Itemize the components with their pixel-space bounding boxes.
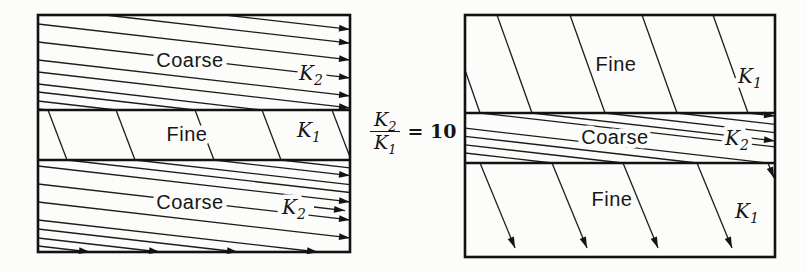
fine-bottom-label: Fine <box>592 188 633 210</box>
k2-mid-label: K2 <box>724 126 749 153</box>
flow-arrowhead-icon <box>334 206 345 213</box>
fraction-numerator: K2 <box>370 109 400 132</box>
k2-bottom-label: K2 <box>281 195 306 222</box>
flow-line <box>38 84 262 110</box>
equation-rhs: = 10 <box>407 120 456 142</box>
flow-line <box>465 153 552 163</box>
flow-line <box>262 110 281 160</box>
flow-arrowhead-icon <box>339 171 350 178</box>
coarse-mid-label: Coarse <box>581 126 648 148</box>
flow-line <box>38 220 318 252</box>
flow-line <box>480 163 515 248</box>
flow-arrowhead-icon <box>651 237 658 248</box>
coarse-bottom-label: Coarse <box>156 191 223 213</box>
k1-mid-label: K1 <box>296 118 321 145</box>
left-stratified-section: CoarseK2FineK1CoarseK2 <box>38 15 350 254</box>
flow-arrowhead-icon <box>339 55 350 62</box>
right-stratified-section: FineK1CoarseK2FineK1 <box>465 15 775 257</box>
flow-line <box>116 110 135 160</box>
flow-line <box>497 15 532 113</box>
coarse-top-label: Coarse <box>156 49 223 71</box>
conductivity-ratio-equation: K2 K1 = 10 <box>370 109 456 153</box>
flow-line <box>38 101 116 110</box>
flow-arrowhead-icon <box>339 215 350 222</box>
flow-arrowhead-icon <box>339 39 350 46</box>
flow-arrowhead-icon <box>764 136 775 143</box>
flow-line <box>552 163 587 248</box>
flow-line <box>105 15 350 43</box>
k2-top-label: K2 <box>298 61 323 88</box>
flow-line <box>38 238 160 252</box>
flow-line <box>214 160 350 176</box>
flow-line <box>697 163 732 248</box>
flow-arrowhead-icon <box>339 73 350 80</box>
k-ratio-fraction: K2 K1 <box>370 109 400 153</box>
fine-mid-label: Fine <box>167 123 208 145</box>
flow-arrowhead-icon <box>508 237 515 248</box>
flow-line <box>332 110 350 157</box>
fraction-denominator: K1 <box>370 132 400 153</box>
flow-line <box>465 70 480 113</box>
flow-line <box>48 110 67 160</box>
fine-top-label: Fine <box>596 53 637 75</box>
flow-line <box>38 92 195 110</box>
figure-stage: CoarseK2FineK1CoarseK2FineK1CoarseK2Fine… <box>0 0 807 273</box>
k1-bottom-label: K1 <box>734 199 759 226</box>
k1-top-label: K1 <box>737 64 762 91</box>
flow-arrowhead-icon <box>339 91 350 98</box>
flow-line <box>38 229 238 252</box>
flow-line <box>642 15 677 113</box>
flow-arrowhead-icon <box>339 233 350 240</box>
flow-arrowhead-icon <box>580 237 587 248</box>
flow-arrowhead-icon <box>339 197 350 204</box>
flow-arrowhead-icon <box>725 237 732 248</box>
flow-arrowhead-icon <box>767 167 774 178</box>
flow-arrowhead-icon <box>339 25 350 32</box>
flow-line <box>225 15 350 29</box>
flow-line <box>67 160 350 193</box>
